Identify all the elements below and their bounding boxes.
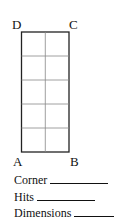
grid-rectangle xyxy=(0,0,116,220)
corner-field: Corner xyxy=(14,173,108,187)
corner-label-a: A xyxy=(13,155,22,168)
corner-label-c: C xyxy=(69,18,78,31)
dimensions-field-label: Dimensions xyxy=(14,206,71,220)
corner-answer-line[interactable] xyxy=(50,183,108,184)
dimensions-field: Dimensions xyxy=(14,206,114,220)
dimensions-answer-line[interactable] xyxy=(74,216,114,217)
corner-field-label: Corner xyxy=(14,173,47,187)
hits-field: Hits xyxy=(14,190,95,204)
hits-field-label: Hits xyxy=(14,190,34,204)
corner-label-d: D xyxy=(12,18,21,31)
corner-label-b: B xyxy=(70,155,79,168)
hits-answer-line[interactable] xyxy=(37,200,95,201)
